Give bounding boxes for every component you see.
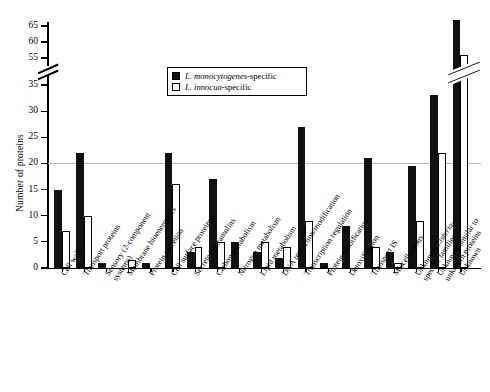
x-axis-labels: Cell wallTransport proteinsSensory (2-co… bbox=[0, 0, 490, 392]
bar-chart: Number of proteins 05101520253035556065 … bbox=[0, 0, 490, 392]
x-axis-label-0: Cell wall bbox=[60, 248, 84, 278]
